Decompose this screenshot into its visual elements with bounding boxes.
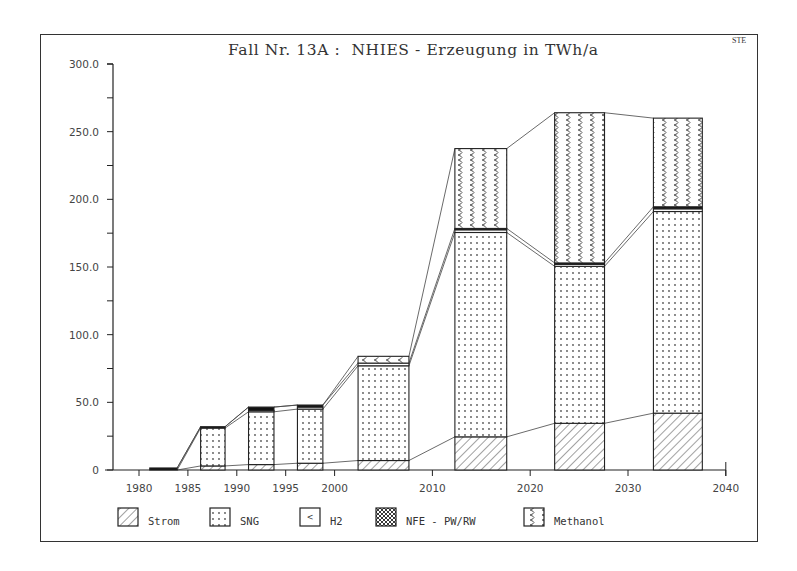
legend-item-strom: Strom [118,508,180,527]
bar-1997 [297,405,322,470]
bar-1982 [150,468,177,470]
stacked-bars [150,113,703,470]
x-tick-label: 1990 [223,482,250,494]
plot-area: 050.0100.0150.0200.0250.0300.01980198519… [0,0,797,571]
x-tick-label: 1980 [126,482,153,494]
bar-2015 [455,149,507,470]
bar-segment-sng [297,409,322,463]
bar-segment-nfe-pw-rw [201,427,225,428]
legend-label: H2 [330,515,343,527]
y-tick-label: 100.0 [69,329,99,341]
x-tick-label: 1995 [272,482,299,494]
bar-segment-methanol [455,149,507,229]
bar-segment-strom [201,466,225,470]
bar-segment-sng [653,212,702,414]
bar-1987 [201,427,225,470]
bar-segment-strom [455,437,507,470]
bar-segment-strom [358,461,409,470]
x-tick-label: 2030 [615,482,642,494]
y-tick-label: 50.0 [76,396,99,408]
wave-swatch-icon [524,508,544,526]
bar-segment-strom [249,465,274,470]
bar-2005 [358,356,409,470]
bar-segment-sng [555,266,605,423]
bar-segment-nfe-pw-rw [150,468,177,470]
x-tick-label: 2010 [419,482,446,494]
legend-label: Strom [148,515,180,527]
y-tick-label: 150.0 [69,261,99,273]
bar-1992 [249,407,274,470]
bar-segment-sng [455,232,507,436]
crosshatch-swatch-icon [376,508,396,526]
bar-segment-strom [297,463,322,470]
bar-segment-nfe-pw-rw [297,405,322,407]
hatch-swatch-icon [118,508,138,526]
bar-segment-sng [201,428,225,466]
legend-label: NFE - PW/RW [406,515,476,527]
x-tick-label: 2040 [712,482,739,494]
bar-segment-methanol [653,118,702,207]
bar-segment-sng [249,412,274,465]
legend-item-methanol: Methanol [524,508,605,527]
y-tick-label: 200.0 [69,193,99,205]
bar-segment-nfe-pw-rw [249,407,274,410]
y-tick-label: 300.0 [69,58,99,70]
bar-segment-sng [358,366,409,461]
legend-item-sng: SNG [210,508,259,527]
bar-segment-methanol [358,356,409,363]
legend-item-h2: <H2 [300,508,343,527]
bar-segment-methanol [555,113,605,263]
legend-label: SNG [240,515,259,527]
y-tick-label: 0 [92,464,99,476]
svg-text:<: < [307,513,314,522]
x-tick-label: 2000 [321,482,348,494]
dots-swatch-icon [210,508,230,526]
bar-2035 [653,118,702,470]
y-tick-label: 250.0 [69,126,99,138]
x-tick-label: 2020 [517,482,544,494]
legend: StromSNG<H2NFE - PW/RWMethanol [118,508,605,527]
x-tick-label: 1985 [175,482,202,494]
bar-segment-strom [555,423,605,470]
legend-item-nfe-pw-rw: NFE - PW/RW [376,508,476,527]
legend-label: Methanol [554,515,605,527]
bar-2025 [555,113,605,470]
bar-segment-strom [653,413,702,470]
